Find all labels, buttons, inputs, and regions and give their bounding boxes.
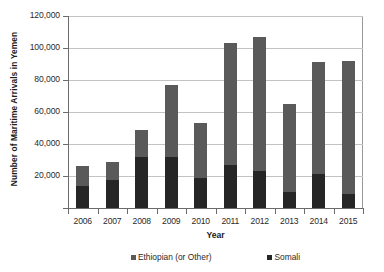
- bar-segment-ethiopian[interactable]: [283, 104, 296, 192]
- x-axis-tick: [98, 209, 99, 214]
- x-axis-tick: [68, 209, 69, 214]
- bar-segment-somali[interactable]: [283, 192, 296, 208]
- bar-segment-ethiopian[interactable]: [76, 166, 89, 185]
- bar-segment-somali[interactable]: [342, 194, 355, 208]
- bar-group[interactable]: [194, 16, 207, 208]
- legend-item[interactable]: Ethiopian (or Other): [131, 252, 212, 262]
- x-axis-tick: [363, 209, 364, 214]
- bar-group[interactable]: [253, 16, 266, 208]
- bar-group[interactable]: [312, 16, 325, 208]
- stacked-bar-chart: Number of Maritime Arrivals in Yemen 20,…: [0, 0, 384, 272]
- x-axis-tick: [127, 209, 128, 214]
- x-axis-tick: [216, 209, 217, 214]
- bar-segment-somali[interactable]: [106, 180, 119, 208]
- legend-item-label: Ethiopian (or Other): [138, 252, 212, 262]
- bar-group[interactable]: [342, 16, 355, 208]
- bar-segment-somali[interactable]: [165, 157, 178, 208]
- x-axis-tick-label: 2015: [328, 216, 368, 226]
- bar-segment-ethiopian[interactable]: [165, 85, 178, 157]
- legend-swatch-icon: [267, 255, 272, 260]
- bar-segment-ethiopian[interactable]: [312, 62, 325, 174]
- chart-legend: Ethiopian (or Other)Somali: [68, 252, 363, 262]
- legend-item-label: Somali: [274, 252, 300, 262]
- bar-segment-somali[interactable]: [194, 178, 207, 208]
- bar-segment-somali[interactable]: [135, 157, 148, 208]
- bar-group[interactable]: [165, 16, 178, 208]
- x-axis-tick: [186, 209, 187, 214]
- bar-segment-somali[interactable]: [76, 186, 89, 208]
- bar-segment-somali[interactable]: [312, 174, 325, 208]
- x-axis-title: Year: [68, 230, 363, 240]
- y-axis-tick-label: 120,000: [0, 10, 60, 20]
- y-axis-tick-label: 40,000: [0, 138, 60, 148]
- y-axis-tick-label: 100,000: [0, 42, 60, 52]
- bar-group[interactable]: [224, 16, 237, 208]
- bar-group[interactable]: [283, 16, 296, 208]
- legend-swatch-icon: [131, 255, 136, 260]
- bar-segment-ethiopian[interactable]: [194, 123, 207, 177]
- x-axis-tick: [304, 209, 305, 214]
- bar-segment-ethiopian[interactable]: [135, 130, 148, 157]
- bar-segment-somali[interactable]: [253, 171, 266, 208]
- bar-group[interactable]: [135, 16, 148, 208]
- x-axis-tick: [275, 209, 276, 214]
- bar-segment-ethiopian[interactable]: [224, 43, 237, 165]
- bar-segment-ethiopian[interactable]: [342, 61, 355, 194]
- y-axis-tick-label: 60,000: [0, 106, 60, 116]
- x-axis-tick: [334, 209, 335, 214]
- bar-group[interactable]: [106, 16, 119, 208]
- bar-group[interactable]: [76, 16, 89, 208]
- bar-segment-ethiopian[interactable]: [253, 37, 266, 171]
- bars-layer: [68, 16, 363, 208]
- x-axis-tick: [157, 209, 158, 214]
- bar-segment-somali[interactable]: [224, 165, 237, 208]
- x-axis-tick: [245, 209, 246, 214]
- y-axis-tick-label: 20,000: [0, 170, 60, 180]
- y-axis-tick-label: 80,000: [0, 74, 60, 84]
- bar-segment-ethiopian[interactable]: [106, 162, 119, 180]
- legend-item[interactable]: Somali: [267, 252, 300, 262]
